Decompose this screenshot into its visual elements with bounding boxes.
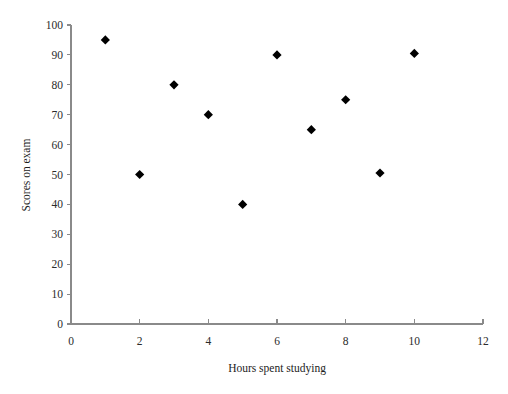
data-point-marker [272, 50, 281, 59]
x-axis-tick-label: 10 [409, 335, 421, 347]
y-axis-tick-label: 70 [52, 109, 64, 121]
y-axis-tick-label: 30 [52, 228, 64, 240]
y-axis-tick-label: 0 [57, 318, 63, 330]
y-axis-tick-label: 10 [52, 288, 64, 300]
data-point-marker [375, 168, 384, 177]
data-points [101, 35, 419, 209]
data-point-marker [238, 200, 247, 209]
y-axis-tick-label: 50 [52, 169, 64, 181]
y-axis-tick-label: 20 [52, 258, 64, 270]
x-axis-tick-label: 6 [274, 335, 280, 347]
x-axis-tick-label: 4 [205, 335, 211, 347]
x-axis-tick-label: 2 [137, 335, 143, 347]
x-axis: 024681012 [68, 319, 489, 347]
data-point-marker [169, 80, 178, 89]
data-point-marker [101, 35, 110, 44]
x-axis-tick-label: 0 [68, 335, 74, 347]
data-point-marker [204, 110, 213, 119]
y-axis: 0102030405060708090100 [46, 19, 71, 330]
y-axis-tick-label: 100 [46, 19, 64, 31]
x-axis-title: Hours spent studying [228, 362, 326, 375]
y-axis-tick-label: 80 [52, 79, 64, 91]
plot-area: 0102030405060708090100 024681012 Hours s… [0, 0, 508, 394]
data-point-marker [135, 170, 144, 179]
data-point-marker [410, 49, 419, 58]
data-point-marker [341, 95, 350, 104]
y-axis-tick-label: 90 [52, 49, 64, 61]
x-axis-tick-label: 12 [477, 335, 489, 347]
y-axis-title: Scores on exam [20, 139, 32, 212]
scatter-chart: 0102030405060708090100 024681012 Hours s… [0, 0, 508, 394]
data-point-marker [307, 125, 316, 134]
x-axis-tick-label: 8 [343, 335, 349, 347]
y-axis-tick-label: 40 [52, 198, 64, 210]
y-axis-tick-label: 60 [52, 139, 64, 151]
